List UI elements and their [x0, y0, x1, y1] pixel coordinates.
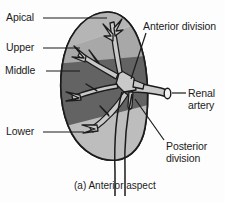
- label-upper: Upper: [6, 42, 34, 54]
- label-posterior-division-line1: Posterior: [166, 140, 207, 152]
- kidney-anterior-aspect-figure: Apical Upper Middle Lower Anterior divis…: [0, 0, 225, 203]
- label-anterior-division: Anterior division: [143, 21, 216, 33]
- label-posterior-division-line2: division: [166, 152, 207, 164]
- label-apical: Apical: [6, 12, 34, 24]
- label-renal-artery: Renal artery: [188, 87, 215, 111]
- artery-cut-face: [164, 88, 171, 98]
- label-lower: Lower: [6, 126, 34, 138]
- label-posterior-division: Posterior division: [166, 140, 207, 164]
- label-renal-artery-line2: artery: [188, 99, 215, 111]
- label-renal-artery-line1: Renal: [188, 87, 215, 99]
- figure-caption: (a) Anterior aspect: [74, 180, 156, 191]
- label-middle: Middle: [5, 65, 35, 77]
